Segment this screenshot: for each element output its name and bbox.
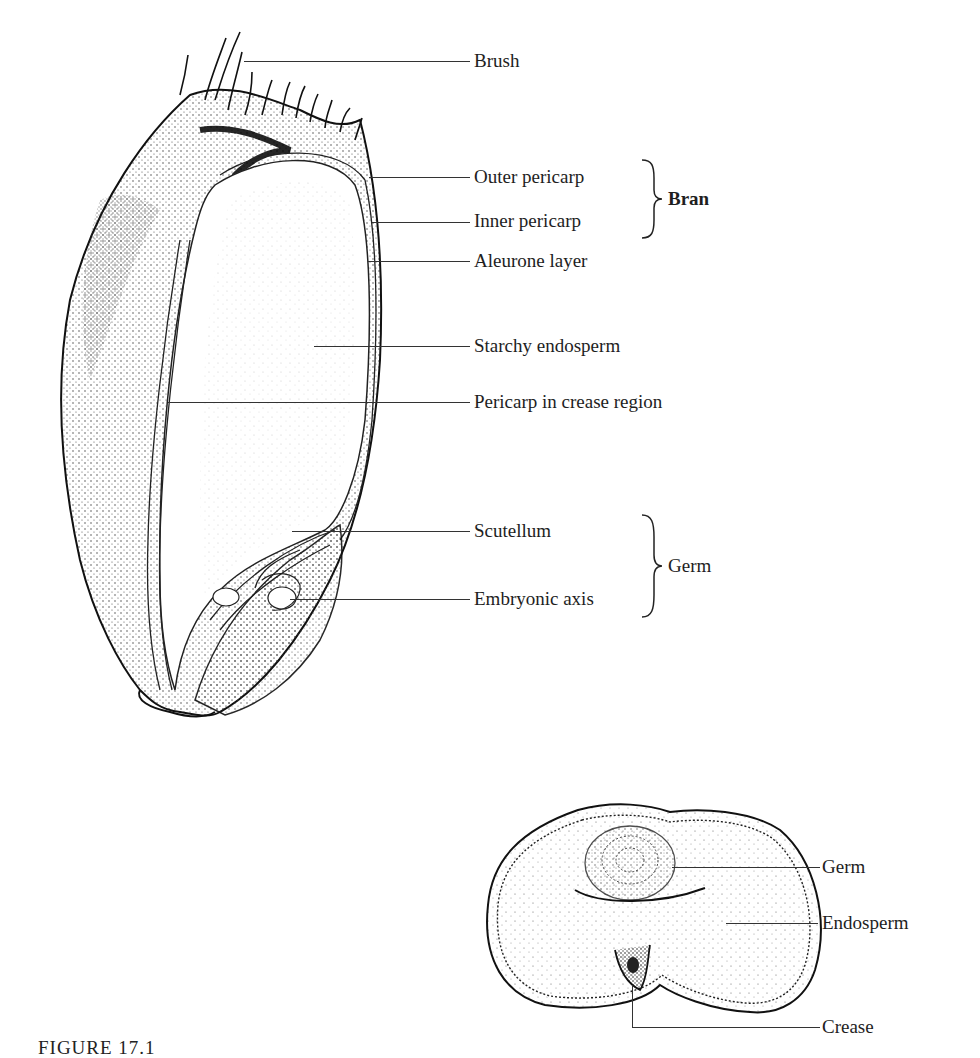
leader-cross-crease-vertical <box>632 985 633 1028</box>
label-starchy-endosperm: Starchy endosperm <box>474 335 620 357</box>
leader-embryonic-axis <box>290 599 470 600</box>
leader-cross-crease <box>632 1027 820 1028</box>
group-label-bran: Bran <box>668 188 709 210</box>
leader-cross-germ <box>672 867 820 868</box>
brace-germ-icon <box>640 513 666 619</box>
cross-section <box>487 804 821 1012</box>
longitudinal-section <box>61 32 381 717</box>
leader-scutellum <box>292 531 470 532</box>
label-embryonic-axis: Embryonic axis <box>474 588 594 610</box>
group-label-germ: Germ <box>668 555 711 577</box>
brace-bran-icon <box>640 158 666 240</box>
label-outer-pericarp: Outer pericarp <box>474 166 584 188</box>
leader-aleurone-layer <box>368 261 470 262</box>
leader-starchy-endosperm <box>314 346 470 347</box>
label-aleurone-layer: Aleurone layer <box>474 250 587 272</box>
leader-brush <box>244 61 470 62</box>
label-cross-endosperm: Endosperm <box>822 912 909 934</box>
label-cross-crease: Crease <box>822 1016 874 1038</box>
label-cross-germ: Germ <box>822 856 865 878</box>
label-brush: Brush <box>474 50 519 72</box>
leader-outer-pericarp <box>369 177 470 178</box>
leader-inner-pericarp <box>372 222 470 223</box>
leader-cross-endosperm <box>726 923 818 924</box>
label-scutellum: Scutellum <box>474 520 551 542</box>
figure-caption: FIGURE 17.1 <box>38 1037 156 1058</box>
label-pericarp-crease: Pericarp in crease region <box>474 391 662 413</box>
leader-pericarp-crease <box>168 402 470 403</box>
label-inner-pericarp: Inner pericarp <box>474 210 581 232</box>
